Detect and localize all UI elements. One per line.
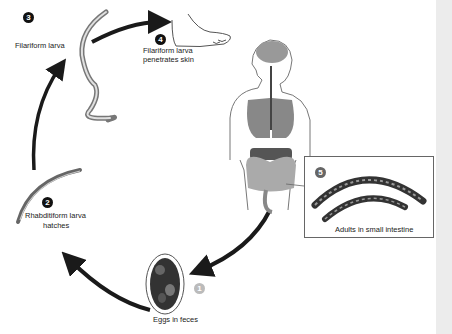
step-5-label: Adults in small intestine <box>335 225 413 234</box>
human-body-illustration <box>230 40 310 212</box>
step-4-badge: 4 <box>155 34 166 45</box>
step-1-badge: 1 <box>194 283 205 294</box>
arrow-1-to-2 <box>70 260 150 310</box>
egg-illustration <box>146 254 184 314</box>
step-3-label: Filariform larva <box>15 41 65 50</box>
adults-inset-box: 5 Adults in small intestine <box>304 156 434 238</box>
step-4-label-line1: Filariform larva <box>143 46 193 55</box>
step-5-badge: 5 <box>315 167 326 178</box>
foot-illustration <box>172 14 230 47</box>
step-2-label-line2: hatches <box>43 221 69 230</box>
step-2-badge: 2 <box>42 197 53 208</box>
step-4-label-line2: penetrates skin <box>143 55 194 64</box>
arrow-5-to-1 <box>200 210 270 270</box>
step-3-badge: 3 <box>23 12 34 23</box>
step-1-label: Eggs in feces <box>153 315 198 324</box>
arrow-3-to-4 <box>92 22 160 42</box>
arrow-2-to-3 <box>34 67 60 170</box>
step-2-label-line1: Rhabditiform larva <box>25 211 86 220</box>
filariform-larva-illustration <box>82 12 115 120</box>
life-cycle-diagram: 5 Adults in small intestine 3 Filariform… <box>0 0 452 334</box>
